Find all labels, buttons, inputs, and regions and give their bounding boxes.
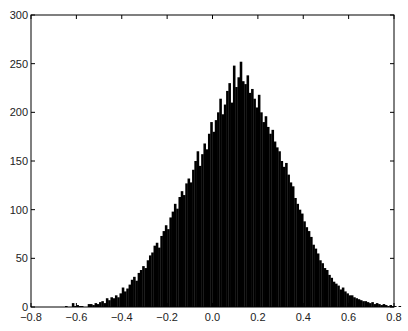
histogram-bar — [210, 122, 213, 307]
histogram-bar — [72, 303, 75, 307]
histogram-bar — [290, 182, 293, 307]
histogram-bar — [124, 291, 127, 307]
histogram-bar — [113, 298, 116, 307]
x-tick-label: 0.6 — [341, 311, 356, 323]
histogram-bar — [342, 288, 345, 307]
histogram-bar — [203, 143, 206, 307]
histogram-bar — [335, 284, 338, 307]
histogram-bar — [249, 93, 252, 307]
y-tick-label: 300 — [10, 9, 28, 21]
histogram-bar — [328, 275, 331, 307]
histogram-bar — [213, 132, 216, 307]
histogram-bar — [142, 266, 145, 307]
histogram-bar — [117, 297, 120, 307]
histogram-bar — [135, 281, 138, 307]
histogram-bar — [126, 289, 129, 307]
histogram-bar — [326, 270, 329, 307]
histogram-bar — [365, 301, 368, 307]
histogram-bar — [258, 95, 261, 307]
histogram-bar — [260, 112, 263, 307]
histogram-bar — [178, 197, 181, 307]
histogram-bar — [244, 84, 247, 307]
histogram-bar — [219, 99, 222, 307]
x-tick-label: 0.2 — [250, 311, 265, 323]
histogram-bar — [274, 142, 277, 307]
histogram-bar — [115, 295, 118, 307]
histogram-bar — [188, 179, 191, 307]
histogram-bar — [201, 154, 204, 307]
histogram-bar — [371, 302, 374, 307]
histogram-bar — [222, 114, 225, 307]
histogram-bar — [149, 255, 152, 307]
histogram-bar — [217, 112, 220, 307]
histogram-bar — [285, 163, 288, 307]
histogram-bar — [344, 291, 347, 307]
histogram-bar — [301, 214, 304, 307]
histogram-bar — [310, 237, 313, 307]
histogram-bar — [308, 231, 311, 307]
histogram-bar — [138, 273, 141, 307]
histogram-bar — [226, 91, 229, 307]
histogram-bar — [253, 99, 256, 307]
histogram-bar — [355, 298, 358, 307]
histogram-bar — [163, 231, 166, 307]
histogram-chart: −0.8−0.6−0.4−0.20.00.20.40.60.8 05010015… — [0, 0, 408, 331]
histogram-bar — [324, 268, 327, 307]
y-tick-label: 50 — [16, 252, 28, 264]
y-tick-label: 250 — [10, 58, 28, 70]
y-axis-tick-labels: 050100150200250300 — [10, 9, 28, 313]
histogram-bars — [65, 62, 401, 307]
histogram-bar — [296, 204, 299, 307]
histogram-bar — [360, 300, 363, 307]
histogram-bar — [299, 210, 302, 307]
histogram-bar — [237, 77, 240, 307]
histogram-bar — [312, 245, 315, 307]
histogram-bar — [281, 161, 284, 307]
histogram-bar — [160, 236, 163, 307]
histogram-bar — [251, 89, 254, 307]
histogram-bar — [233, 66, 236, 307]
histogram-bar — [283, 167, 286, 307]
histogram-bar — [276, 147, 279, 307]
x-tick-label: −0.6 — [66, 311, 88, 323]
histogram-bar — [278, 151, 281, 307]
histogram-bar — [176, 209, 179, 307]
x-tick-label: 0.4 — [296, 311, 311, 323]
histogram-bar — [231, 103, 234, 307]
histogram-bar — [315, 249, 318, 307]
y-tick-label: 200 — [10, 106, 28, 118]
histogram-bar — [169, 217, 172, 307]
histogram-bar — [181, 191, 184, 307]
x-tick-label: 0.8 — [386, 311, 401, 323]
histogram-bar — [129, 285, 132, 307]
x-axis-tick-labels: −0.8−0.6−0.4−0.20.00.20.40.60.8 — [20, 311, 402, 323]
y-tick-label: 0 — [22, 301, 28, 313]
histogram-bar — [267, 127, 270, 307]
histogram-bar — [110, 297, 113, 307]
histogram-bar — [154, 246, 157, 307]
histogram-bar — [303, 221, 306, 307]
y-tick-label: 150 — [10, 155, 28, 167]
histogram-bar — [240, 62, 243, 307]
histogram-bar — [174, 204, 177, 307]
histogram-bar — [183, 195, 186, 307]
histogram-bar — [362, 301, 365, 307]
histogram-bar — [208, 134, 211, 307]
histogram-bar — [185, 183, 188, 307]
histogram-bar — [199, 166, 202, 307]
histogram-bar — [269, 134, 272, 307]
histogram-bar — [265, 116, 268, 307]
histogram-bar — [140, 270, 143, 307]
histogram-bar — [242, 81, 245, 307]
histogram-bar — [306, 227, 309, 307]
histogram-bar — [321, 263, 324, 307]
histogram-bar — [247, 75, 250, 307]
histogram-bar — [151, 252, 154, 307]
y-tick-label: 100 — [10, 204, 28, 216]
histogram-bar — [330, 278, 333, 307]
histogram-bar — [367, 302, 370, 307]
histogram-bar — [351, 295, 354, 307]
histogram-bar — [224, 105, 227, 307]
x-tick-label: 0.0 — [205, 311, 220, 323]
histogram-bar — [376, 303, 379, 307]
